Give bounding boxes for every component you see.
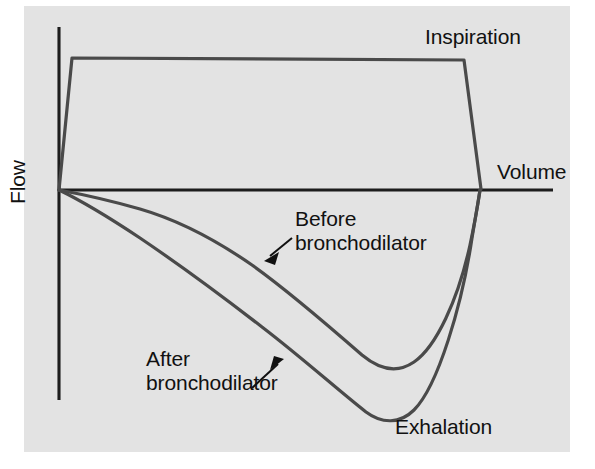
flow-axis-label: Flow (6, 134, 30, 204)
exhalation-label: Exhalation (395, 415, 492, 439)
before-label-line1: Before (295, 207, 356, 230)
before-bronchodilator-label: Beforebronchodilator (295, 207, 427, 254)
inspiration-label: Inspiration (425, 25, 521, 49)
inspiration-curve (59, 58, 481, 190)
after-label-line2: bronchodilator (146, 371, 278, 394)
after-bronchodilator-label: Afterbronchodilator (146, 347, 278, 394)
volume-axis-label: Volume (497, 160, 566, 184)
after-label-line1: After (146, 347, 190, 370)
flow-volume-loop-figure: Inspiration Volume Flow Beforebronchodil… (0, 0, 595, 469)
before-label-line2: bronchodilator (295, 231, 427, 254)
before-bronchodilator-pointer (264, 238, 292, 265)
